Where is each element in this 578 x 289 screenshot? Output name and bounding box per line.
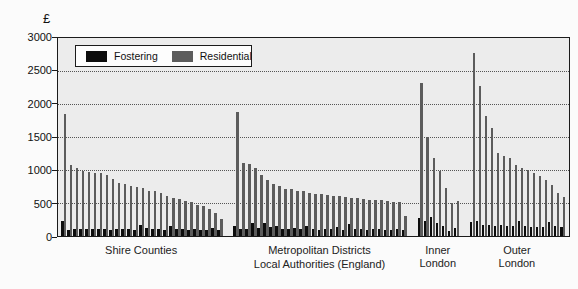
- bar-residential: [491, 128, 494, 236]
- bar-residential: [260, 175, 263, 236]
- bar-residential: [350, 198, 353, 236]
- y-axis-unit-label: £: [43, 11, 50, 26]
- bar-residential: [314, 194, 317, 236]
- bar-residential: [106, 175, 109, 236]
- bar-residential: [148, 191, 151, 236]
- bar-residential: [70, 165, 73, 236]
- bar-residential: [94, 173, 97, 236]
- bar-residential: [533, 173, 536, 236]
- bar-residential: [473, 53, 476, 236]
- bar-residential: [356, 198, 359, 236]
- bar-residential: [398, 202, 401, 236]
- legend-label-fostering: Fostering: [114, 50, 158, 62]
- group-label-line: Outer: [447, 244, 578, 257]
- bar-residential: [320, 194, 323, 236]
- y-axis-tick-mark: [52, 70, 57, 71]
- bar-residential: [420, 83, 423, 236]
- bar-residential: [497, 153, 500, 236]
- y-axis-tick-label: 3000: [20, 31, 52, 43]
- bar-residential: [236, 112, 239, 236]
- bar-residential: [284, 189, 287, 236]
- bar-residential: [142, 188, 145, 236]
- y-axis-tick-label: 0: [20, 231, 52, 243]
- bar-residential: [439, 171, 442, 236]
- legend-item-residential: Residential: [172, 50, 252, 62]
- bar-residential: [64, 114, 67, 236]
- bar-residential: [404, 216, 407, 236]
- bar-residential: [386, 201, 389, 236]
- bar-residential: [527, 170, 530, 236]
- bar-residential: [557, 193, 560, 236]
- bar-residential: [302, 191, 305, 236]
- bar-residential: [521, 168, 524, 236]
- gridline: [58, 104, 569, 105]
- gridline: [58, 71, 569, 72]
- fostering-swatch-icon: [86, 51, 107, 62]
- bar-residential: [509, 158, 512, 236]
- y-axis-tick-mark: [52, 103, 57, 104]
- group-label-line: London: [447, 257, 578, 270]
- bar-residential: [130, 186, 133, 236]
- y-axis-tick-label: 2000: [20, 98, 52, 110]
- bar-residential: [166, 196, 169, 236]
- y-axis-tick-mark: [52, 170, 57, 171]
- bar-residential: [457, 201, 460, 236]
- bar-residential: [202, 206, 205, 236]
- bar-residential: [184, 201, 187, 236]
- bar-residential: [451, 203, 454, 236]
- bar-residential: [368, 200, 371, 236]
- bar-residential: [563, 197, 566, 236]
- bar-residential: [503, 156, 506, 236]
- bar-residential: [374, 200, 377, 236]
- y-axis-tick-label: 2500: [20, 64, 52, 76]
- bar-residential: [479, 86, 482, 236]
- bar-residential: [190, 202, 193, 236]
- bar-residential: [551, 185, 554, 236]
- y-axis-tick-mark: [52, 203, 57, 204]
- y-axis-tick-mark: [52, 237, 57, 238]
- bar-residential: [266, 180, 269, 236]
- bar-residential: [290, 189, 293, 236]
- bar-residential: [326, 195, 329, 236]
- bar-residential: [392, 202, 395, 236]
- bar-residential: [178, 199, 181, 236]
- bar-residential: [344, 197, 347, 236]
- bar-residential: [118, 183, 121, 236]
- bar-residential: [332, 196, 335, 236]
- bar-residential: [445, 188, 448, 236]
- bar-residential: [485, 116, 488, 236]
- legend-label-residential: Residential: [200, 50, 252, 62]
- y-axis-tick-mark: [52, 137, 57, 138]
- y-axis-tick-label: 1500: [20, 131, 52, 143]
- bar-residential: [426, 137, 429, 236]
- bar-residential: [433, 158, 436, 236]
- bar-residential: [545, 180, 548, 236]
- bar-residential: [100, 173, 103, 236]
- bar-residential: [338, 196, 341, 236]
- group-label-line: Shire Counties: [71, 244, 211, 257]
- bar-residential: [76, 168, 79, 236]
- bar-residential: [112, 179, 115, 236]
- bar-residential: [160, 193, 163, 236]
- bar-residential: [88, 172, 91, 236]
- bar-residential: [208, 209, 211, 236]
- legend-item-fostering: Fostering: [86, 50, 158, 62]
- bar-residential: [296, 191, 299, 236]
- bar-residential: [272, 184, 275, 236]
- plot-area: [57, 37, 570, 237]
- bar-residential: [242, 163, 245, 236]
- group-label: Shire Counties: [71, 244, 211, 257]
- bar-residential: [278, 186, 281, 236]
- bar-residential: [380, 200, 383, 236]
- bar-residential: [362, 199, 365, 236]
- bar-residential: [539, 176, 542, 236]
- bar-residential: [220, 219, 223, 236]
- group-label: OuterLondon: [447, 244, 578, 270]
- bar-residential: [196, 205, 199, 236]
- legend: Fostering Residential: [75, 45, 252, 67]
- bar-residential: [82, 171, 85, 236]
- bar-residential: [248, 164, 251, 236]
- residential-swatch-icon: [172, 51, 193, 62]
- bar-residential: [154, 191, 157, 236]
- bar-residential: [254, 168, 257, 236]
